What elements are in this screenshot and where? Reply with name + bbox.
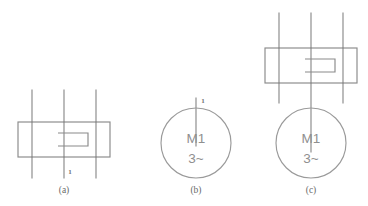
panel-b-caption: (b) bbox=[190, 185, 201, 196]
panel-a-upper-conductors bbox=[32, 90, 96, 122]
motor-phase-b: 3~ bbox=[188, 151, 204, 166]
panel-a-internal-conductors bbox=[32, 122, 96, 157]
panel-c: M1 3~ (c) bbox=[265, 13, 357, 196]
panel-b-terminal-label: 1 bbox=[201, 97, 205, 105]
panel-b: 1 M1 3~ (b) bbox=[161, 97, 231, 196]
panel-c-upper-conductors bbox=[279, 13, 343, 48]
motor-phase-c: 3~ bbox=[303, 151, 319, 166]
panel-a-lower-conductors bbox=[32, 157, 96, 178]
motor-designation-b: M1 bbox=[187, 131, 206, 146]
contact-step-linkage bbox=[58, 133, 88, 146]
panel-a-caption: (a) bbox=[59, 185, 70, 196]
schematic-figure: 1 (a) 1 M1 3~ (b) bbox=[0, 0, 368, 206]
motor-designation-c: M1 bbox=[302, 131, 321, 146]
contact-step-linkage-c bbox=[305, 59, 335, 72]
panel-c-internal-conductors bbox=[279, 48, 343, 83]
panel-a: 1 (a) bbox=[18, 90, 110, 196]
panel-c-caption: (c) bbox=[306, 185, 317, 196]
panel-a-terminal-label: 1 bbox=[68, 168, 72, 176]
figure-canvas: 1 (a) 1 M1 3~ (b) bbox=[0, 0, 368, 206]
